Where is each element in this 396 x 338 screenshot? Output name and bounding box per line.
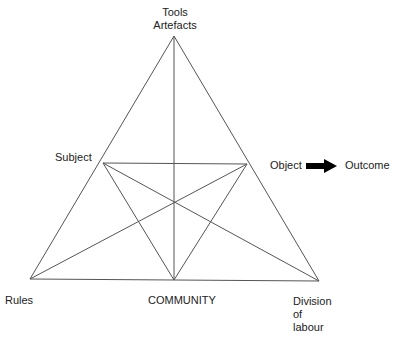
node-tools-artefacts: Tools Artefacts [148, 6, 202, 32]
node-division-line1: Division [293, 295, 333, 308]
edge-object-rules [30, 164, 247, 279]
node-rules: Rules [5, 294, 33, 307]
edge-tools-rules [30, 36, 174, 279]
triangle-lines [0, 0, 396, 338]
edge-subject-division [103, 163, 319, 281]
node-community: COMMUNITY [148, 294, 216, 307]
node-division-of-labour: Division of labour [293, 295, 333, 334]
node-artefacts-label: Artefacts [148, 19, 202, 32]
node-tools-label: Tools [148, 6, 202, 19]
node-subject: Subject [55, 151, 92, 164]
activity-triangle-diagram: Tools Artefacts Subject Object Outcome R… [0, 0, 396, 338]
node-division-line2: of [293, 308, 333, 321]
edge-subject-object [103, 163, 247, 164]
node-object: Object [270, 159, 302, 172]
node-division-line3: labour [293, 321, 333, 334]
arrow-right-icon [306, 159, 337, 173]
node-outcome: Outcome [345, 159, 390, 172]
